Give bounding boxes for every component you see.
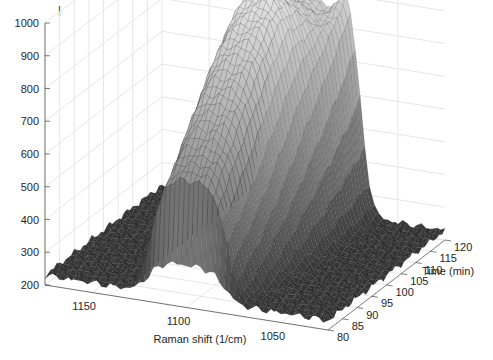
- y-tick-label: 120: [454, 241, 472, 253]
- y-tick-label: 115: [439, 252, 457, 264]
- y-tick-mark: [416, 263, 422, 264]
- y-tick-mark: [401, 274, 407, 275]
- y-tick-mark: [430, 251, 436, 252]
- y-tick-label: 95: [381, 297, 393, 309]
- z-tick-label: 900: [21, 50, 39, 62]
- x-tick-label: 1050: [261, 330, 285, 342]
- z-tick-label: 200: [21, 279, 39, 291]
- y-tick-mark: [387, 285, 393, 286]
- y-axis-label: Time (min): [422, 265, 474, 277]
- y-tick-label: 85: [352, 320, 364, 332]
- x-tick-label: 1150: [72, 300, 96, 312]
- z-tick-label: 300: [21, 246, 39, 258]
- y-tick-mark: [445, 240, 451, 241]
- y-tick-label: 80: [337, 331, 349, 343]
- z-tick-label: 800: [21, 83, 39, 95]
- x-tick-label: 1100: [167, 315, 191, 327]
- surface-mesh: [45, 0, 445, 322]
- x-axis-label: Raman shift (1/cm): [154, 333, 247, 345]
- surface-chart: | 20030040050060070080090010001150110010…: [0, 0, 493, 360]
- y-tick-mark: [343, 319, 349, 320]
- y-tick-mark: [328, 330, 334, 331]
- z-tick-label: 500: [21, 181, 39, 193]
- y-tick-mark: [372, 296, 378, 297]
- z-tick-label: 700: [21, 115, 39, 127]
- z-tick-label: 1000: [15, 17, 39, 29]
- y-tick-mark: [357, 308, 363, 309]
- z-tick-label: 600: [21, 148, 39, 160]
- z-tick-label: 400: [21, 214, 39, 226]
- y-tick-label: 100: [396, 286, 414, 298]
- y-tick-label: 90: [366, 309, 378, 321]
